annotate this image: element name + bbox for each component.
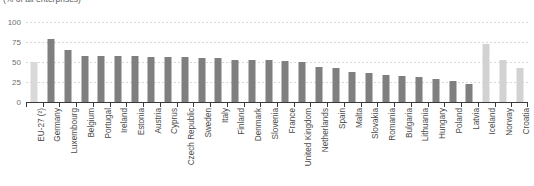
bar[interactable]: [81, 56, 88, 102]
x-tick: [461, 103, 462, 107]
bar[interactable]: [148, 57, 155, 102]
x-tick: [294, 103, 295, 107]
bar-slot[interactable]: [327, 22, 344, 102]
bar-slot[interactable]: [461, 22, 478, 102]
bar[interactable]: [165, 57, 172, 102]
x-tick: [495, 103, 496, 107]
bar-chart: (% of all enterprises) 0255075100 EU-27 …: [0, 0, 534, 186]
bar-slot[interactable]: [93, 22, 110, 102]
bar[interactable]: [432, 79, 439, 102]
bar-slot[interactable]: [244, 22, 261, 102]
x-category-label: Sweden: [205, 108, 213, 138]
bar[interactable]: [181, 57, 188, 102]
x-category-label: Czech Republic: [188, 108, 196, 165]
bar[interactable]: [31, 62, 38, 102]
x-category-label: Slovenia: [272, 108, 280, 139]
x-tick: [344, 103, 345, 107]
bar[interactable]: [299, 62, 306, 102]
bar-slot[interactable]: [294, 22, 311, 102]
bar-slot[interactable]: [411, 22, 428, 102]
bar[interactable]: [449, 81, 456, 102]
x-category-label: EU-27 (²): [38, 108, 46, 142]
x-tick: [210, 103, 211, 107]
bar-slot[interactable]: [361, 22, 378, 102]
x-tick: [361, 103, 362, 107]
bar-slot[interactable]: [478, 22, 495, 102]
bar-slot[interactable]: [227, 22, 244, 102]
x-tick: [227, 103, 228, 107]
x-tick: [244, 103, 245, 107]
bar[interactable]: [416, 77, 423, 102]
bar-slot[interactable]: [444, 22, 461, 102]
bar[interactable]: [399, 76, 406, 102]
bar-slot[interactable]: [377, 22, 394, 102]
bar[interactable]: [215, 58, 222, 102]
bar[interactable]: [382, 75, 389, 102]
x-tick: [428, 103, 429, 107]
bar[interactable]: [349, 72, 356, 102]
bar[interactable]: [64, 50, 71, 102]
x-category-label: Slovakia: [372, 108, 380, 139]
bar-slot[interactable]: [43, 22, 60, 102]
bar[interactable]: [232, 60, 239, 102]
x-category-label: Finland: [238, 108, 246, 135]
bar-slot[interactable]: [428, 22, 445, 102]
bar[interactable]: [332, 68, 339, 102]
x-category-label: Croatia: [523, 108, 531, 134]
x-category-label: Ireland: [121, 108, 129, 133]
bar[interactable]: [198, 58, 205, 102]
x-category-label: Poland: [456, 108, 464, 134]
bar-slot[interactable]: [26, 22, 43, 102]
x-category-label: Belgium: [88, 108, 96, 138]
x-tick: [26, 103, 27, 107]
bar[interactable]: [265, 60, 272, 102]
bar-slot[interactable]: [177, 22, 194, 102]
bar-slot[interactable]: [210, 22, 227, 102]
bar-slot[interactable]: [76, 22, 93, 102]
bar-slot[interactable]: [277, 22, 294, 102]
bar-slot[interactable]: [59, 22, 76, 102]
x-category-label: France: [289, 108, 297, 133]
x-tick: [527, 103, 528, 107]
bar-slot[interactable]: [495, 22, 512, 102]
bar[interactable]: [483, 44, 490, 102]
x-category-label: Luxembourg: [71, 108, 79, 154]
bar-slot[interactable]: [394, 22, 411, 102]
bar-slot[interactable]: [511, 22, 528, 102]
bar-slot[interactable]: [160, 22, 177, 102]
bar-slot[interactable]: [193, 22, 210, 102]
bar[interactable]: [282, 61, 289, 102]
x-category-label: Spain: [339, 108, 347, 129]
bar[interactable]: [98, 56, 105, 102]
bar-slot[interactable]: [260, 22, 277, 102]
bar[interactable]: [466, 84, 473, 102]
x-tick: [193, 103, 194, 107]
bar-series: [26, 22, 528, 102]
x-tick: [478, 103, 479, 107]
x-axis-ticks: [26, 103, 528, 107]
x-tick: [177, 103, 178, 107]
bar[interactable]: [115, 56, 122, 102]
bar[interactable]: [516, 68, 523, 102]
x-tick: [59, 103, 60, 107]
bar-slot[interactable]: [344, 22, 361, 102]
x-tick: [277, 103, 278, 107]
bar[interactable]: [366, 73, 373, 102]
bar[interactable]: [499, 60, 506, 102]
bar-slot[interactable]: [143, 22, 160, 102]
x-tick: [444, 103, 445, 107]
bar[interactable]: [48, 39, 55, 102]
y-tick-label-75: 75: [0, 38, 21, 47]
bar[interactable]: [131, 56, 138, 102]
y-tick-label-100: 100: [0, 18, 21, 27]
bar[interactable]: [248, 60, 255, 102]
x-tick: [43, 103, 44, 107]
x-tick: [260, 103, 261, 107]
bar[interactable]: [315, 67, 322, 102]
x-category-label: Bulgaria: [406, 108, 414, 138]
bar-slot[interactable]: [110, 22, 127, 102]
bar-slot[interactable]: [126, 22, 143, 102]
x-tick: [377, 103, 378, 107]
bar-slot[interactable]: [310, 22, 327, 102]
x-tick: [411, 103, 412, 107]
